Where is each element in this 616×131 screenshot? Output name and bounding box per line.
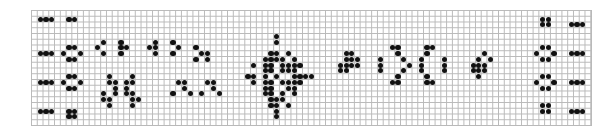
live-cell[interactable] [280, 80, 285, 85]
live-cell[interactable] [66, 86, 71, 91]
live-cell[interactable] [66, 57, 71, 62]
live-cell[interactable] [390, 80, 395, 85]
live-cell[interactable] [263, 86, 268, 91]
live-cell[interactable] [292, 63, 297, 68]
live-cell[interactable] [546, 17, 551, 22]
live-cell[interactable] [118, 40, 123, 45]
live-cell[interactable] [205, 57, 210, 62]
live-cell[interactable] [72, 17, 77, 22]
live-cell[interactable] [274, 109, 279, 114]
live-cell[interactable] [124, 86, 129, 91]
live-cell[interactable] [476, 68, 481, 73]
live-cell[interactable] [546, 57, 551, 62]
live-cell[interactable] [569, 51, 574, 56]
life-grid[interactable] [31, 10, 592, 126]
live-cell[interactable] [61, 51, 66, 56]
live-cell[interactable] [130, 91, 135, 96]
live-cell[interactable] [72, 45, 77, 50]
live-cell[interactable] [130, 74, 135, 79]
live-cell[interactable] [170, 51, 175, 56]
live-cell[interactable] [153, 40, 158, 45]
live-cell[interactable] [355, 57, 360, 62]
live-cell[interactable] [263, 80, 268, 85]
live-cell[interactable] [251, 74, 256, 79]
live-cell[interactable] [286, 63, 291, 68]
live-cell[interactable] [136, 97, 141, 102]
live-cell[interactable] [263, 74, 268, 79]
live-cell[interactable] [540, 74, 545, 79]
live-cell[interactable] [268, 86, 273, 91]
live-cell[interactable] [430, 80, 435, 85]
live-cell[interactable] [199, 51, 204, 56]
live-cell[interactable] [297, 63, 302, 68]
live-cell[interactable] [245, 74, 250, 79]
live-cell[interactable] [78, 51, 83, 56]
live-cell[interactable] [419, 68, 424, 73]
live-cell[interactable] [424, 45, 429, 50]
live-cell[interactable] [211, 86, 216, 91]
live-cell[interactable] [107, 97, 112, 102]
live-cell[interactable] [390, 45, 395, 50]
live-cell[interactable] [395, 80, 400, 85]
live-cell[interactable] [401, 57, 406, 62]
live-cell[interactable] [395, 74, 400, 79]
live-cell[interactable] [101, 91, 106, 96]
live-cell[interactable] [476, 57, 481, 62]
live-cell[interactable] [72, 86, 77, 91]
live-cell[interactable] [401, 68, 406, 73]
live-cell[interactable] [43, 80, 48, 85]
live-cell[interactable] [274, 51, 279, 56]
live-cell[interactable] [101, 40, 106, 45]
live-cell[interactable] [95, 45, 100, 50]
live-cell[interactable] [540, 57, 545, 62]
live-cell[interactable] [49, 109, 54, 114]
live-cell[interactable] [38, 51, 43, 56]
live-cell[interactable] [124, 91, 129, 96]
live-cell[interactable] [188, 91, 193, 96]
live-cell[interactable] [574, 22, 579, 27]
live-cell[interactable] [268, 51, 273, 56]
live-cell[interactable] [580, 80, 585, 85]
live-cell[interactable] [113, 86, 118, 91]
live-cell[interactable] [292, 74, 297, 79]
live-cell[interactable] [580, 22, 585, 27]
live-cell[interactable] [274, 34, 279, 39]
live-cell[interactable] [546, 103, 551, 108]
live-cell[interactable] [424, 74, 429, 79]
live-cell[interactable] [130, 97, 135, 102]
live-cell[interactable] [355, 63, 360, 68]
live-cell[interactable] [72, 114, 77, 119]
live-cell[interactable] [344, 51, 349, 56]
live-cell[interactable] [72, 57, 77, 62]
live-cell[interactable] [378, 63, 383, 68]
live-cell[interactable] [274, 114, 279, 119]
live-cell[interactable] [118, 45, 123, 50]
live-cell[interactable] [569, 80, 574, 85]
live-cell[interactable] [263, 68, 268, 73]
live-cell[interactable] [476, 63, 481, 68]
live-cell[interactable] [268, 97, 273, 102]
live-cell[interactable] [349, 57, 354, 62]
live-cell[interactable] [43, 109, 48, 114]
live-cell[interactable] [107, 74, 112, 79]
live-cell[interactable] [297, 74, 302, 79]
live-cell[interactable] [338, 68, 343, 73]
live-cell[interactable] [286, 80, 291, 85]
live-cell[interactable] [338, 63, 343, 68]
live-cell[interactable] [344, 68, 349, 73]
live-cell[interactable] [419, 63, 424, 68]
live-cell[interactable] [580, 109, 585, 114]
live-cell[interactable] [268, 63, 273, 68]
live-cell[interactable] [344, 63, 349, 68]
live-cell[interactable] [286, 103, 291, 108]
live-cell[interactable] [292, 91, 297, 96]
live-cell[interactable] [205, 80, 210, 85]
live-cell[interactable] [292, 86, 297, 91]
live-cell[interactable] [153, 51, 158, 56]
live-cell[interactable] [101, 51, 106, 56]
live-cell[interactable] [274, 74, 279, 79]
live-cell[interactable] [280, 63, 285, 68]
live-cell[interactable] [124, 45, 129, 50]
live-cell[interactable] [442, 63, 447, 68]
live-cell[interactable] [442, 57, 447, 62]
